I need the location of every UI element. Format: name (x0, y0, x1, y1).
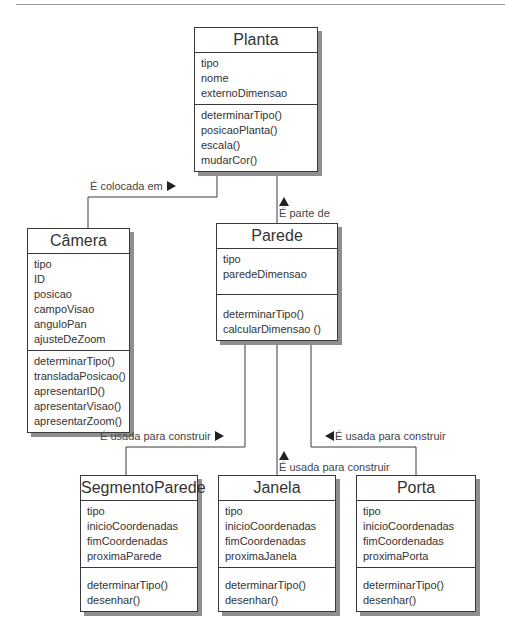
relation-text: É colocada em (90, 180, 163, 192)
attributes-section: tipo ID posicao campoVisao anguloPan aju… (28, 254, 129, 350)
attribute: inicioCoordenadas (363, 519, 469, 534)
arrow-left-icon (325, 431, 334, 441)
relation-text: É usada para construir (335, 430, 446, 442)
attributes-section: tipo inicioCoordenadas fimCoordenadas pr… (357, 501, 475, 567)
arrow-right-icon (167, 181, 176, 191)
method: desenhar() (87, 593, 191, 608)
method: apresentarZoom() (34, 414, 123, 429)
relation-label-porta-parede: É usada para construir (325, 430, 446, 442)
arrow-right-icon (215, 431, 224, 441)
class-title: Parede (217, 224, 337, 249)
relation-label-parede-planta: É parte de (279, 207, 330, 219)
attributes-section: tipo inicioCoordenadas fimCoordenadas pr… (219, 501, 335, 567)
relation-label-janela-parede: É usada para construir (279, 461, 390, 473)
attribute: externoDimensao (201, 86, 311, 101)
method: mudarCor() (201, 153, 311, 168)
attributes-section: tipo inicioCoordenadas fimCoordenadas pr… (81, 501, 197, 567)
attribute: ajusteDeZoom (34, 332, 123, 347)
class-title: Câmera (28, 229, 129, 254)
attribute: tipo (201, 56, 311, 71)
relation-text: É usada para construir (279, 461, 390, 473)
method: determinarTipo() (87, 578, 191, 593)
method: calcularDimensao () (223, 322, 331, 337)
method: posicaoPlanta() (201, 123, 311, 138)
method: determinarTipo() (34, 354, 123, 369)
attribute: inicioCoordenadas (225, 519, 329, 534)
attribute: posicao (34, 287, 123, 302)
attribute: tipo (223, 252, 331, 267)
connector-porta-parede (311, 333, 416, 475)
methods-section: determinarTipo() desenhar() (219, 567, 335, 611)
methods-section: determinarTipo() desenhar() (357, 567, 475, 611)
class-parede[interactable]: Parede tipo paredeDimensao determinarTip… (216, 223, 338, 341)
relation-label-segmento-parede: É usada para construir (100, 430, 224, 442)
attribute: tipo (34, 257, 123, 272)
class-camera[interactable]: Câmera tipo ID posicao campoVisao angulo… (27, 228, 130, 433)
method: apresentarID() (34, 384, 123, 399)
attribute: nome (201, 71, 311, 86)
class-title: Planta (195, 28, 317, 53)
class-porta[interactable]: Porta tipo inicioCoordenadas fimCoordena… (356, 475, 476, 612)
arrow-up-icon (279, 451, 289, 460)
class-janela[interactable]: Janela tipo inicioCoordenadas fimCoorden… (218, 475, 336, 612)
attribute: tipo (87, 504, 191, 519)
attribute: fimCoordenadas (87, 534, 191, 549)
attribute: tipo (363, 504, 469, 519)
class-planta[interactable]: Planta tipo nome externoDimensao determi… (194, 27, 318, 172)
relation-label-camera-planta: É colocada em (90, 180, 176, 192)
method: apresentarVisao() (34, 399, 123, 414)
attribute: inicioCoordenadas (87, 519, 191, 534)
attribute: ID (34, 272, 123, 287)
class-title: Porta (357, 476, 475, 501)
method: determinarTipo() (201, 108, 311, 123)
attribute: anguloPan (34, 317, 123, 332)
method: desenhar() (363, 593, 469, 608)
connector-segmento-parede (126, 333, 245, 475)
attribute: fimCoordenadas (225, 534, 329, 549)
class-title: Janela (219, 476, 335, 501)
relation-text: É parte de (279, 207, 330, 219)
arrow-up-icon (279, 197, 289, 206)
method: determinarTipo() (363, 578, 469, 593)
methods-section: determinarTipo() posicaoPlanta() escala(… (195, 104, 317, 171)
attribute: campoVisao (34, 302, 123, 317)
attribute: proximaPorta (363, 549, 469, 564)
attribute: paredeDimensao (223, 267, 331, 282)
class-title: SegmentoParede (81, 476, 197, 501)
method: determinarTipo() (225, 578, 329, 593)
relation-text: É usada para construir (100, 430, 211, 442)
attribute: fimCoordenadas (363, 534, 469, 549)
attributes-section: tipo nome externoDimensao (195, 53, 317, 104)
attribute: proximaJanela (225, 549, 329, 564)
class-segmento-parede[interactable]: SegmentoParede tipo inicioCoordenadas fi… (80, 475, 198, 612)
method: transladaPosicao() (34, 369, 123, 384)
methods-section: determinarTipo() transladaPosicao() apre… (28, 350, 129, 432)
attribute: tipo (225, 504, 329, 519)
method: determinarTipo() (223, 307, 331, 322)
method: escala() (201, 138, 311, 153)
method: desenhar() (225, 593, 329, 608)
attribute: proximaParede (87, 549, 191, 564)
methods-section: determinarTipo() desenhar() (81, 567, 197, 611)
methods-section: determinarTipo() calcularDimensao () (217, 294, 337, 340)
attributes-section: tipo paredeDimensao (217, 249, 337, 294)
